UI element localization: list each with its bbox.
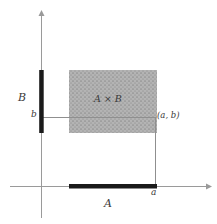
point-ab-label: (a, b) — [157, 111, 180, 120]
x-axis-arrow-icon — [206, 184, 212, 190]
set-B-segment — [39, 70, 44, 133]
product-set-figure: B b A × B (a, b) a A — [0, 0, 217, 224]
product-region-label: A × B — [94, 94, 122, 104]
y-axis-arrow-icon — [39, 10, 45, 16]
tick-b-label: b — [31, 110, 37, 119]
set-A-label: A — [104, 198, 112, 209]
tick-a-label: a — [151, 188, 156, 197]
set-A-segment — [69, 184, 157, 189]
set-B-label: B — [18, 92, 26, 103]
